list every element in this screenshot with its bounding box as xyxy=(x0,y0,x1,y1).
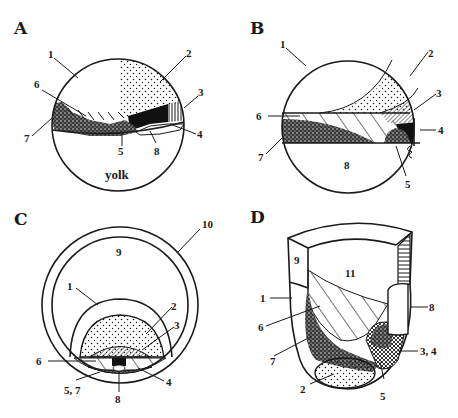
label-1: 1 xyxy=(67,280,73,292)
label-5-7: 5, 7 xyxy=(64,384,81,396)
panel-a: A 1 xyxy=(13,18,204,191)
label-7: 7 xyxy=(270,355,276,367)
label-10: 10 xyxy=(202,218,214,230)
label-8: 8 xyxy=(115,393,121,405)
label-3: 3 xyxy=(198,86,204,98)
panel-d: D 9 11 1 6 7 8 3, xyxy=(250,207,437,402)
label-3-4: 3, 4 xyxy=(420,345,437,357)
label-11: 11 xyxy=(345,267,355,279)
label-3: 3 xyxy=(436,87,442,99)
label-6: 6 xyxy=(34,78,40,90)
label-2: 2 xyxy=(186,47,192,59)
label-2: 2 xyxy=(300,383,306,395)
label-9: 9 xyxy=(294,254,300,266)
label-9: 9 xyxy=(116,246,122,258)
region-2 xyxy=(315,358,375,388)
panel-b: B 1 2 3 4 5 6 7 8 xyxy=(250,18,444,193)
region-3 xyxy=(168,100,190,122)
fate-map-figure: A 1 xyxy=(0,0,458,418)
label-8: 8 xyxy=(429,301,435,313)
label-2: 2 xyxy=(171,300,177,312)
label-1: 1 xyxy=(48,48,54,60)
label-7: 7 xyxy=(24,132,30,144)
label-6: 6 xyxy=(256,110,262,122)
label-4: 4 xyxy=(438,124,444,136)
panel-letter-a: A xyxy=(13,18,28,38)
region-8 xyxy=(113,365,125,371)
panel-letter-d: D xyxy=(250,207,265,227)
label-2: 2 xyxy=(428,47,434,59)
label-1: 1 xyxy=(260,292,266,304)
panel-letter-b: B xyxy=(250,18,264,38)
label-5: 5 xyxy=(405,178,411,190)
label-6: 6 xyxy=(36,355,42,367)
label-6: 6 xyxy=(258,321,264,333)
label-8: 8 xyxy=(154,145,160,157)
label-5: 5 xyxy=(118,145,124,157)
panel-c: C 10 9 1 2 3 6 5, 7 4 8 xyxy=(14,209,214,405)
panel-letter-c: C xyxy=(14,209,28,229)
region-8 xyxy=(388,284,408,335)
label-7: 7 xyxy=(258,151,264,163)
label-1: 1 xyxy=(280,38,286,50)
label-8: 8 xyxy=(344,159,350,171)
label-5: 5 xyxy=(380,390,386,402)
label-3: 3 xyxy=(174,319,180,331)
label-yolk: yolk xyxy=(105,167,130,182)
label-4: 4 xyxy=(166,376,172,388)
label-4: 4 xyxy=(197,128,203,140)
